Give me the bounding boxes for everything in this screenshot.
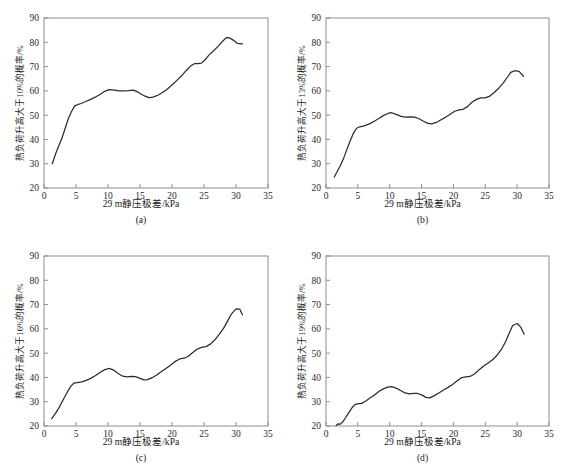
y-tick-label: 90	[312, 13, 322, 23]
y-tick-label: 90	[312, 251, 322, 261]
figure-panel-grid: 051015202530352030405060708090热负荷升高大于10%…	[0, 0, 563, 476]
data-curve	[334, 71, 523, 177]
plot-frame	[326, 256, 549, 426]
y-tick-label: 90	[30, 251, 40, 261]
y-tick-label: 80	[312, 276, 322, 286]
y-tick-label: 60	[30, 324, 40, 334]
panel-caption-d: (d)	[282, 452, 563, 463]
y-tick-label: 30	[30, 397, 40, 407]
y-tick-label: 70	[312, 300, 322, 310]
y-tick-label: 30	[30, 159, 40, 169]
y-tick-label: 60	[312, 324, 322, 334]
y-tick-label: 90	[30, 13, 40, 23]
chart-panel-c: 051015202530352030405060708090热负荷升高大于16%…	[0, 238, 282, 476]
data-curve	[52, 309, 243, 419]
panel-caption-b: (b)	[282, 214, 563, 225]
y-tick-label: 60	[312, 86, 322, 96]
chart-panel-a: 051015202530352030405060708090热负荷升高大于10%…	[0, 0, 282, 238]
chart-panel-d: 051015202530352030405060708090热负荷升高大于19%…	[282, 238, 563, 476]
panel-caption-c: (c)	[0, 452, 282, 463]
y-tick-label: 20	[312, 183, 322, 193]
y-tick-label: 30	[312, 397, 322, 407]
y-tick-label: 20	[312, 421, 322, 431]
data-curve	[52, 38, 242, 164]
y-tick-label: 80	[312, 38, 322, 48]
y-tick-label: 70	[30, 62, 40, 72]
panel-caption-a: (a)	[0, 214, 282, 225]
y-tick-label: 70	[312, 62, 322, 72]
y-tick-label: 80	[30, 276, 40, 286]
plot-frame	[44, 18, 268, 188]
y-tick-label: 60	[30, 86, 40, 96]
y-tick-label: 50	[30, 349, 40, 359]
plot-frame	[44, 256, 268, 426]
y-tick-label: 40	[312, 135, 322, 145]
y-tick-label: 40	[312, 373, 322, 383]
y-tick-label: 30	[312, 159, 322, 169]
y-tick-label: 80	[30, 38, 40, 48]
y-tick-label: 50	[312, 111, 322, 121]
y-tick-label: 50	[312, 349, 322, 359]
plot-frame	[326, 18, 549, 188]
data-curve	[336, 324, 524, 426]
y-tick-label: 50	[30, 111, 40, 121]
x-axis-label-a: 29 m静压极差/kPa	[0, 196, 282, 210]
x-axis-label-b: 29 m静压极差/kPa	[282, 196, 563, 210]
y-axis-label: 热负荷升高大于13%的概率/%	[296, 45, 307, 160]
y-tick-label: 20	[30, 183, 40, 193]
chart-panel-b: 051015202530352030405060708090热负荷升高大于13%…	[282, 0, 563, 238]
x-axis-label-c: 29 m静压极差/kPa	[0, 434, 282, 448]
y-tick-label: 40	[30, 135, 40, 145]
y-axis-label: 热负荷升高大于19%的概率/%	[296, 283, 307, 398]
x-axis-label-d: 29 m静压极差/kPa	[282, 434, 563, 448]
y-tick-label: 70	[30, 300, 40, 310]
y-axis-label: 热负荷升高大于16%的概率/%	[14, 283, 25, 398]
y-tick-label: 20	[30, 421, 40, 431]
y-tick-label: 40	[30, 373, 40, 383]
y-axis-label: 热负荷升高大于10%的概率/%	[14, 45, 25, 160]
